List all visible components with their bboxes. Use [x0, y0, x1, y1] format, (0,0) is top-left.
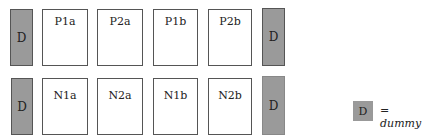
- dummy-label: D: [17, 100, 27, 114]
- dummy-box-top-left: D: [10, 9, 33, 66]
- cell-label: P2a: [98, 15, 142, 28]
- cell-N2b: N2b: [208, 78, 252, 135]
- cell-P2a: P2a: [97, 9, 143, 66]
- dummy-box-top-right: D: [262, 8, 285, 66]
- cell-N2a: N2a: [97, 78, 143, 135]
- dummy-label: D: [17, 31, 27, 45]
- cell-N1a: N1a: [42, 78, 88, 135]
- cell-label: N1b: [154, 89, 197, 102]
- cell-P1a: P1a: [42, 9, 88, 66]
- cell-label: N1a: [43, 89, 87, 102]
- cell-P1b: P1b: [153, 9, 198, 66]
- cell-label: P1a: [43, 15, 87, 28]
- cell-label: N2b: [209, 89, 251, 102]
- cell-N1b: N1b: [153, 78, 198, 135]
- legend-dummy-swatch: D: [353, 101, 373, 121]
- cell-P2b: P2b: [208, 9, 252, 66]
- legend-text: = dummy: [380, 104, 432, 130]
- cell-label: P2b: [209, 15, 251, 28]
- legend-symbol: D: [359, 105, 368, 118]
- cell-label: P1b: [154, 15, 197, 28]
- dummy-box-bottom-left: D: [11, 78, 33, 135]
- dummy-label: D: [269, 30, 279, 44]
- dummy-label: D: [269, 99, 279, 113]
- dummy-box-bottom-right: D: [262, 76, 285, 135]
- cell-label: N2a: [98, 89, 142, 102]
